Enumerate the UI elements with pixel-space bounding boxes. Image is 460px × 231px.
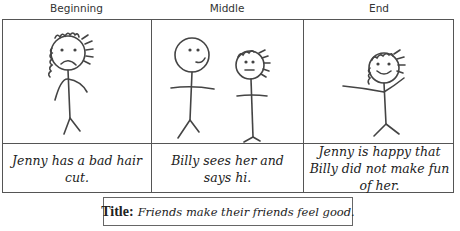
title-label: Title:: [101, 204, 133, 220]
panel-image-beginning: [3, 20, 151, 143]
panel-image-end: [304, 20, 455, 143]
panel-image-middle: [152, 20, 303, 143]
storyboard-grid: Jenny has a bad hair cut. Billy sees her…: [2, 19, 454, 193]
boy-and-girl-drawing-icon: [152, 20, 303, 143]
panel-heading-middle: Middle: [151, 2, 303, 14]
panel-caption-middle: Billy sees her and says hi.: [152, 144, 303, 193]
panel-caption-beginning: Jenny has a bad hair cut.: [3, 144, 151, 193]
panel-heading-end: End: [303, 2, 455, 14]
happy-girl-drawing-icon: [304, 20, 455, 143]
title-text: Friends make their friends feel good.: [138, 205, 355, 219]
panel-heading-beginning: Beginning: [2, 2, 151, 14]
panel-caption-end: Jenny is happy that Billy did not make f…: [304, 144, 455, 193]
story-title-box: Title: Friends make their friends feel g…: [103, 197, 353, 226]
sad-girl-drawing-icon: [3, 20, 151, 143]
